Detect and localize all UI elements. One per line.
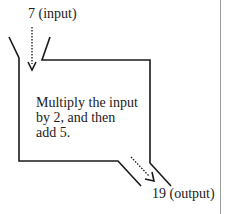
input-arrow-icon [28, 27, 36, 70]
output-label: 19 (output) [152, 186, 215, 201]
page-divider [220, 0, 221, 214]
function-machine-diagram: 7 (input) Multiply the input by 2, and t… [0, 0, 228, 214]
rule-text: Multiply the input by 2, and then add 5. [36, 95, 138, 140]
input-label: 7 (input) [28, 6, 77, 21]
